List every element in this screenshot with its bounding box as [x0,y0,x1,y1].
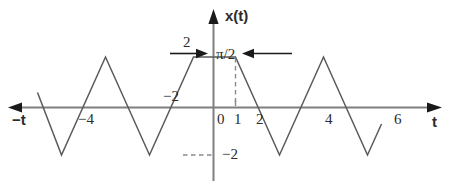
tick-label-6: 6 [394,112,402,127]
t-axis-right-arrowhead [427,102,442,112]
amplitude-label-pi-over-2: π/2 [216,47,235,62]
arrow-left-icon [242,49,254,58]
tick-label-1: 1 [234,112,242,127]
waveform-triangle-wave [38,57,382,155]
amplitude-label-minus-2: −2 [222,147,238,162]
t-axis-negative-label: −t [12,112,26,127]
tick-label-minus-4: −4 [78,112,94,127]
waveform-group [38,57,382,155]
annotation-label-width-2: 2 [183,35,191,50]
x-axis-up-arrowhead [208,9,218,24]
tick-label-2: 2 [256,112,264,127]
tick-label-minus-2: −2 [163,89,179,104]
y-axis-label: x(t) [225,8,248,23]
figure-canvas: x(t) t −t −4 −2 0 1 2 4 6 π/2 −2 2 [0,0,468,189]
t-axis-positive-label: t [432,114,437,129]
tick-label-0: 0 [217,112,225,127]
tick-label-4: 4 [325,112,333,127]
